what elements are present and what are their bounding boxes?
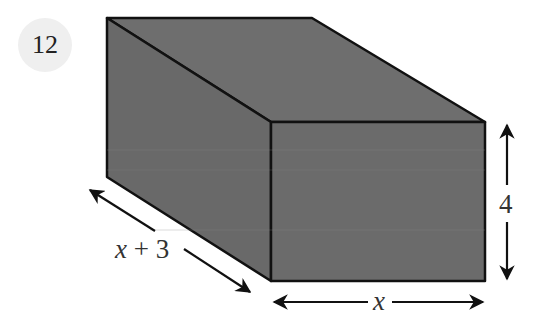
prism-front-face [271, 122, 485, 281]
width-label: x [372, 286, 385, 316]
height-label: 4 [499, 189, 513, 219]
prism-diagram: x + 3 x 4 [0, 0, 543, 333]
depth-label: x + 3 [114, 234, 169, 264]
